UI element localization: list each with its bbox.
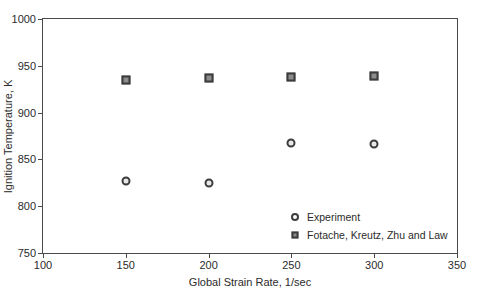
y-axis-tick bbox=[38, 19, 43, 20]
x-axis-title: Global Strain Rate, 1/sec bbox=[42, 277, 458, 288]
square-marker-icon bbox=[288, 228, 302, 242]
data-point-marker bbox=[204, 178, 213, 187]
y-axis-tick bbox=[38, 159, 43, 160]
x-axis-tick bbox=[209, 253, 210, 258]
y-axis-tick-label: 800 bbox=[18, 201, 36, 212]
x-axis-tick bbox=[126, 253, 127, 258]
y-axis-title: Ignition Temperature, K bbox=[2, 18, 16, 254]
y-axis-tick-label: 750 bbox=[18, 248, 36, 259]
y-axis-tick-label: 850 bbox=[18, 154, 36, 165]
x-axis-tick-label: 300 bbox=[365, 260, 383, 271]
legend-item-1: Experiment bbox=[288, 208, 448, 226]
data-point-marker bbox=[204, 73, 213, 82]
legend-item-2: Fotache, Kreutz, Zhu and Law bbox=[288, 226, 448, 244]
legend-marker-glyph bbox=[292, 232, 299, 239]
y-axis-tick-label: 1000 bbox=[12, 14, 36, 25]
circle-marker-icon bbox=[288, 210, 302, 224]
y-axis-tick-label: 900 bbox=[18, 107, 36, 118]
y-axis-tick bbox=[38, 206, 43, 207]
data-point-marker bbox=[121, 176, 130, 185]
y-axis-tick-label: 950 bbox=[18, 60, 36, 71]
data-point-marker bbox=[287, 73, 296, 82]
legend-label: Fotache, Kreutz, Zhu and Law bbox=[307, 230, 448, 241]
data-point-marker bbox=[370, 140, 379, 149]
x-axis-tick-label: 200 bbox=[199, 260, 217, 271]
x-axis-tick-label: 250 bbox=[282, 260, 300, 271]
x-axis-tick-label: 150 bbox=[117, 260, 135, 271]
data-point-marker bbox=[287, 139, 296, 148]
x-axis-tick bbox=[43, 253, 44, 258]
x-axis-tick bbox=[457, 253, 458, 258]
x-axis-tick bbox=[291, 253, 292, 258]
data-point-marker bbox=[121, 75, 130, 84]
y-axis-tick bbox=[38, 113, 43, 114]
y-axis-title-text: Ignition Temperature, K bbox=[4, 79, 15, 193]
x-axis-tick-label: 350 bbox=[448, 260, 466, 271]
y-axis-tick bbox=[38, 66, 43, 67]
legend-marker-glyph bbox=[291, 213, 299, 221]
x-axis-tick bbox=[374, 253, 375, 258]
chart-figure: Ignition Temperature, K 7508008509009501… bbox=[0, 0, 478, 299]
chart-legend: ExperimentFotache, Kreutz, Zhu and Law bbox=[288, 208, 448, 244]
legend-label: Experiment bbox=[307, 212, 360, 223]
x-axis-tick-label: 100 bbox=[34, 260, 52, 271]
data-point-marker bbox=[370, 72, 379, 81]
